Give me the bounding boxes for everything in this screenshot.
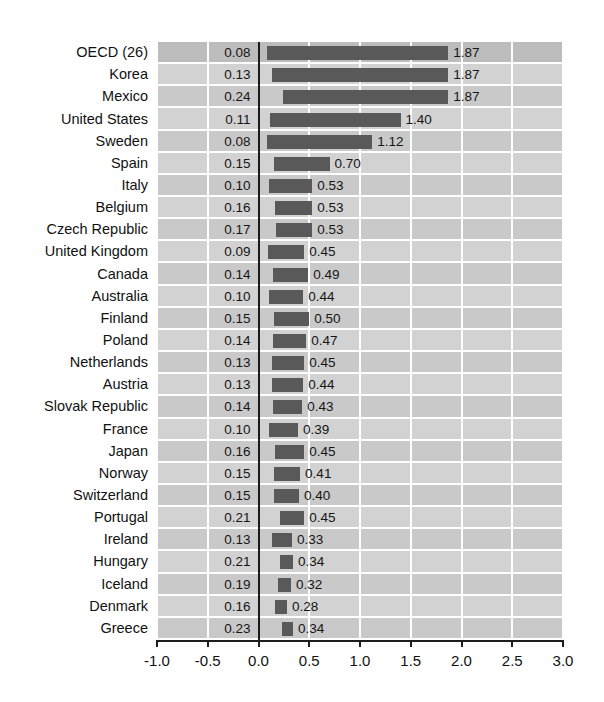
- bar-lower-value-label: 0.08: [201, 135, 251, 149]
- bar-upper-value-label: 0.45: [309, 356, 335, 370]
- chart-bar: [274, 312, 310, 326]
- bar-lower-value-label: 0.11: [201, 113, 251, 127]
- bar-upper-value-label: 0.43: [307, 400, 333, 414]
- category-label: Belgium: [0, 200, 148, 214]
- clipped-title: [300, 0, 470, 5]
- bar-lower-value-label: 0.14: [201, 268, 251, 282]
- chart-bar: [274, 467, 300, 481]
- bar-lower-value-label: 0.10: [201, 423, 251, 437]
- x-axis-tick: [258, 640, 260, 647]
- bar-upper-value-label: 1.87: [453, 90, 479, 104]
- category-label: Canada: [0, 267, 148, 281]
- category-label: Hungary: [0, 554, 148, 568]
- bar-lower-value-label: 0.15: [201, 467, 251, 481]
- chart-bar: [269, 179, 313, 193]
- chart-bar: [275, 600, 287, 614]
- category-label: Mexico: [0, 89, 148, 103]
- category-label: Japan: [0, 444, 148, 458]
- category-label: Korea: [0, 67, 148, 81]
- x-axis-tick: [562, 640, 564, 647]
- category-label: Portugal: [0, 510, 148, 524]
- bar-lower-value-label: 0.13: [201, 533, 251, 547]
- bar-upper-value-label: 0.47: [311, 334, 337, 348]
- chart-bar: [275, 445, 304, 459]
- category-label: Norway: [0, 466, 148, 480]
- category-label: Sweden: [0, 134, 148, 148]
- x-axis-tick: [207, 640, 209, 647]
- bar-upper-value-label: 0.50: [314, 312, 340, 326]
- bar-upper-value-label: 1.87: [453, 46, 479, 60]
- category-label: Switzerland: [0, 488, 148, 502]
- x-axis-tick: [461, 640, 463, 647]
- bar-lower-value-label: 0.09: [201, 245, 251, 259]
- chart-bar: [273, 268, 309, 282]
- gridline: [308, 42, 310, 640]
- category-label: Finland: [0, 311, 148, 325]
- bar-lower-value-label: 0.15: [201, 489, 251, 503]
- bar-upper-value-label: 1.40: [406, 113, 432, 127]
- chart-bar: [273, 400, 302, 414]
- bar-lower-value-label: 0.21: [201, 555, 251, 569]
- bar-upper-value-label: 0.33: [297, 533, 323, 547]
- chart-bar: [274, 489, 299, 503]
- category-label: Poland: [0, 333, 148, 347]
- chart-bar: [269, 423, 298, 437]
- bar-lower-value-label: 0.16: [201, 600, 251, 614]
- bar-upper-value-label: 0.45: [309, 511, 335, 525]
- bar-upper-value-label: 0.34: [298, 622, 324, 636]
- category-label: United States: [0, 112, 148, 126]
- chart-bar: [267, 46, 449, 60]
- gridline: [359, 42, 361, 640]
- bar-lower-value-label: 0.15: [201, 312, 251, 326]
- bar-lower-value-label: 0.24: [201, 90, 251, 104]
- category-label: Austria: [0, 377, 148, 391]
- category-label: Australia: [0, 289, 148, 303]
- category-label: Greece: [0, 621, 148, 635]
- bar-upper-value-label: 0.32: [296, 578, 322, 592]
- x-axis-tick: [308, 640, 310, 647]
- category-label: Ireland: [0, 532, 148, 546]
- chart-bar: [272, 356, 304, 370]
- x-axis-tick: [156, 640, 158, 647]
- gridline: [562, 42, 564, 640]
- bar-lower-value-label: 0.16: [201, 201, 251, 215]
- chart-bar: [275, 201, 313, 215]
- chart-bar: [276, 223, 313, 237]
- bar-lower-value-label: 0.13: [201, 68, 251, 82]
- bar-lower-value-label: 0.10: [201, 290, 251, 304]
- bar-lower-value-label: 0.10: [201, 179, 251, 193]
- category-label: Netherlands: [0, 355, 148, 369]
- bar-upper-value-label: 0.53: [317, 201, 343, 215]
- category-label: United Kingdom: [0, 244, 148, 258]
- chart-bar: [273, 334, 306, 348]
- chart-bar: [278, 578, 291, 592]
- bar-upper-value-label: 0.44: [308, 378, 334, 392]
- bar-upper-value-label: 0.40: [304, 489, 330, 503]
- gridline: [410, 42, 412, 640]
- chart-page: OECD (26)KoreaMexicoUnited StatesSwedenS…: [0, 0, 604, 702]
- gridline: [511, 42, 513, 640]
- category-label: France: [0, 422, 148, 436]
- category-label: Slovak Republic: [0, 399, 148, 413]
- bar-lower-value-label: 0.17: [201, 223, 251, 237]
- chart-bar: [272, 533, 292, 547]
- gridline: [461, 42, 463, 640]
- bar-upper-value-label: 0.49: [313, 268, 339, 282]
- bar-lower-value-label: 0.14: [201, 334, 251, 348]
- bar-upper-value-label: 0.28: [292, 600, 318, 614]
- x-axis-tick: [410, 640, 412, 647]
- x-axis-tick: [359, 640, 361, 647]
- gridline: [156, 42, 158, 640]
- chart-bar: [280, 555, 293, 569]
- bar-upper-value-label: 0.39: [303, 423, 329, 437]
- bar-upper-value-label: 0.44: [308, 290, 334, 304]
- bar-lower-value-label: 0.16: [201, 445, 251, 459]
- zero-axis-line: [258, 42, 260, 640]
- chart-bar: [280, 511, 304, 525]
- category-label: Iceland: [0, 577, 148, 591]
- bar-lower-value-label: 0.15: [201, 157, 251, 171]
- bar-lower-value-label: 0.21: [201, 511, 251, 525]
- category-label: Spain: [0, 156, 148, 170]
- bar-upper-value-label: 0.45: [309, 245, 335, 259]
- bar-upper-value-label: 0.41: [305, 467, 331, 481]
